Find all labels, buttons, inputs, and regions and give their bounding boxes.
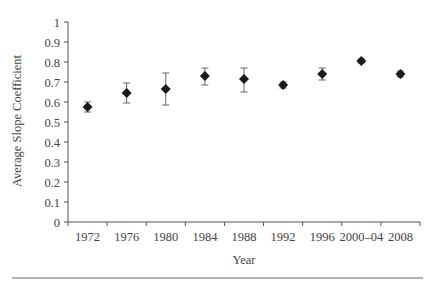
y-axis-title: Average Slope Coefficient [10,54,24,187]
chart-canvas: 00.10.20.30.40.50.60.70.80.91 1972197619… [0,0,433,285]
x-tick-label: 1992 [271,230,296,244]
y-tick-label: 0.8 [44,56,60,70]
data-point [83,102,93,112]
diamond-marker-icon [200,71,210,81]
y-tick-label: 0.9 [44,36,60,50]
y-tick-label: 0.1 [44,196,60,210]
diamond-marker-icon [356,56,366,66]
y-tick-label: 0.6 [44,96,60,110]
x-tick-label: 1976 [114,230,139,244]
data-series [83,56,406,112]
y-tick-label: 1 [54,16,60,30]
x-tick-label: 2000–04 [339,230,384,244]
data-point [278,80,288,90]
x-tick-label: 1984 [192,230,218,244]
data-point [395,69,405,79]
data-point [317,68,327,80]
x-axis-title: Year [232,253,256,267]
data-point [239,68,249,92]
data-point [356,56,366,66]
x-tick-label: 1988 [232,230,257,244]
y-tick-label: 0.7 [44,76,60,90]
x-tick-label: 1996 [310,230,335,244]
y-tick-label: 0.2 [44,176,60,190]
x-tick-label: 1980 [153,230,178,244]
diamond-marker-icon [83,102,93,112]
x-tick-label: 1972 [75,230,100,244]
diamond-marker-icon [161,84,171,94]
y-tick-label: 0.3 [44,156,60,170]
x-axis: 19721976198019841988199219962000–042008 [68,222,420,244]
y-axis: 00.10.20.30.40.50.60.70.80.91 [44,16,68,230]
y-tick-label: 0 [54,216,60,230]
y-tick-label: 0.4 [44,136,60,150]
data-point [122,83,132,103]
x-tick-label: 2008 [388,230,413,244]
diamond-marker-icon [239,74,249,84]
data-point [161,73,171,105]
diamond-marker-icon [317,69,327,79]
y-tick-label: 0.5 [44,116,60,130]
diamond-marker-icon [122,88,132,98]
data-point [200,68,210,85]
